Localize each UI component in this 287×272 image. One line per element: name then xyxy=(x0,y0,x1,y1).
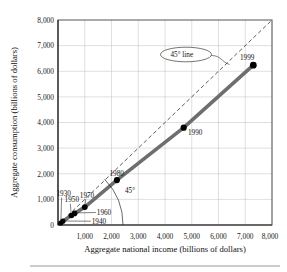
x-tick-4000: 4,000 xyxy=(157,232,174,241)
consumption-income-chart: 1930 1950 1970 1960 1940 1980 1990 1999 … xyxy=(0,0,287,272)
x-axis-title: Aggregate national income (billions of d… xyxy=(84,244,246,254)
angle-label-45: 45° xyxy=(125,187,135,195)
label-1940: 1940 xyxy=(92,218,107,226)
y-tick-0: 0 xyxy=(50,221,54,230)
x-tick-6000: 6,000 xyxy=(210,232,227,241)
x-tick-3000: 3,000 xyxy=(130,232,147,241)
y-tick-4000: 4,000 xyxy=(37,118,54,127)
y-tick-8000: 8,000 xyxy=(37,16,54,25)
y-axis-title: Aggregate consumption (billions of dolla… xyxy=(9,47,19,198)
label-1980: 1980 xyxy=(110,170,125,178)
x-tick-5000: 5,000 xyxy=(183,232,200,241)
point-1970 xyxy=(82,204,88,210)
y-tick-labels: 8,000 7,000 6,000 5,000 4,000 3,000 2,00… xyxy=(37,16,54,230)
point-1999 xyxy=(250,62,257,69)
y-tick-2000: 2,000 xyxy=(37,170,54,179)
point-1990 xyxy=(181,125,187,131)
y-tick-6000: 6,000 xyxy=(37,67,54,76)
x-tick-2000: 2,000 xyxy=(103,232,120,241)
point-1960 xyxy=(72,211,78,217)
y-tick-7000: 7,000 xyxy=(37,41,54,50)
label-1999: 1999 xyxy=(240,54,255,62)
y-tick-1000: 1,000 xyxy=(37,195,54,204)
label-1960: 1960 xyxy=(97,209,112,217)
x-tick-7000: 7,000 xyxy=(237,232,254,241)
y-tick-3000: 3,000 xyxy=(37,144,54,153)
label-1990: 1990 xyxy=(188,129,203,137)
label-1950: 1950 xyxy=(65,196,80,204)
y-tick-5000: 5,000 xyxy=(37,93,54,102)
x-tick-8000: 8,000 xyxy=(262,232,279,241)
x-tick-labels: 1,000 2,000 3,000 4,000 5,000 6,000 7,00… xyxy=(76,232,278,241)
callout-45-line-text: 45° line xyxy=(171,51,194,59)
figure-container: 1930 1950 1970 1960 1940 1980 1990 1999 … xyxy=(0,0,287,272)
x-tick-1000: 1,000 xyxy=(76,232,93,241)
label-1970: 1970 xyxy=(80,192,95,200)
